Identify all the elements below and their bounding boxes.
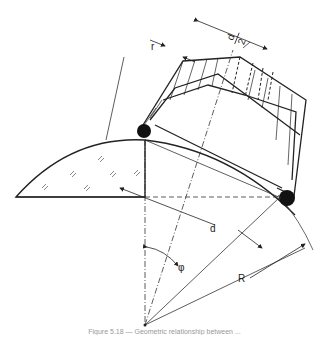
svg-text:2: 2 [235,37,247,47]
label-d-half: d 2 [224,28,250,48]
holder-body [138,57,306,196]
label-R: R [238,273,245,284]
contact-ball-right [279,190,295,206]
label-phi: φ [178,262,185,273]
label-d: d [210,223,216,234]
center-point [144,324,147,327]
construction-lines [106,42,305,325]
diagram-canvas: r d 2 d φ R [0,0,329,337]
contact-ball-left [137,124,151,138]
dome-shape [16,140,145,197]
figure-caption: Figure 5.18 — Geometric relationship bet… [0,328,329,335]
label-r: r [151,41,155,52]
